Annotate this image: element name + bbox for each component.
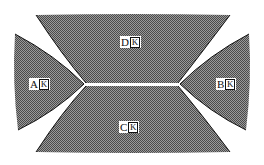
label-b-letter: B (217, 78, 224, 90)
label-b-box: K (225, 79, 235, 90)
label-a-box: K (39, 79, 49, 90)
central-slit (86, 83, 178, 86)
label-c-box: K (128, 122, 138, 133)
label-a-letter: A (30, 78, 38, 90)
label-a: AK (29, 78, 50, 90)
label-b: BK (216, 78, 236, 90)
label-c-letter: C (120, 121, 127, 133)
label-d-letter: D (121, 36, 129, 48)
label-c: CK (119, 121, 139, 133)
label-d: DK (120, 36, 141, 48)
label-d-box: K (130, 37, 140, 48)
